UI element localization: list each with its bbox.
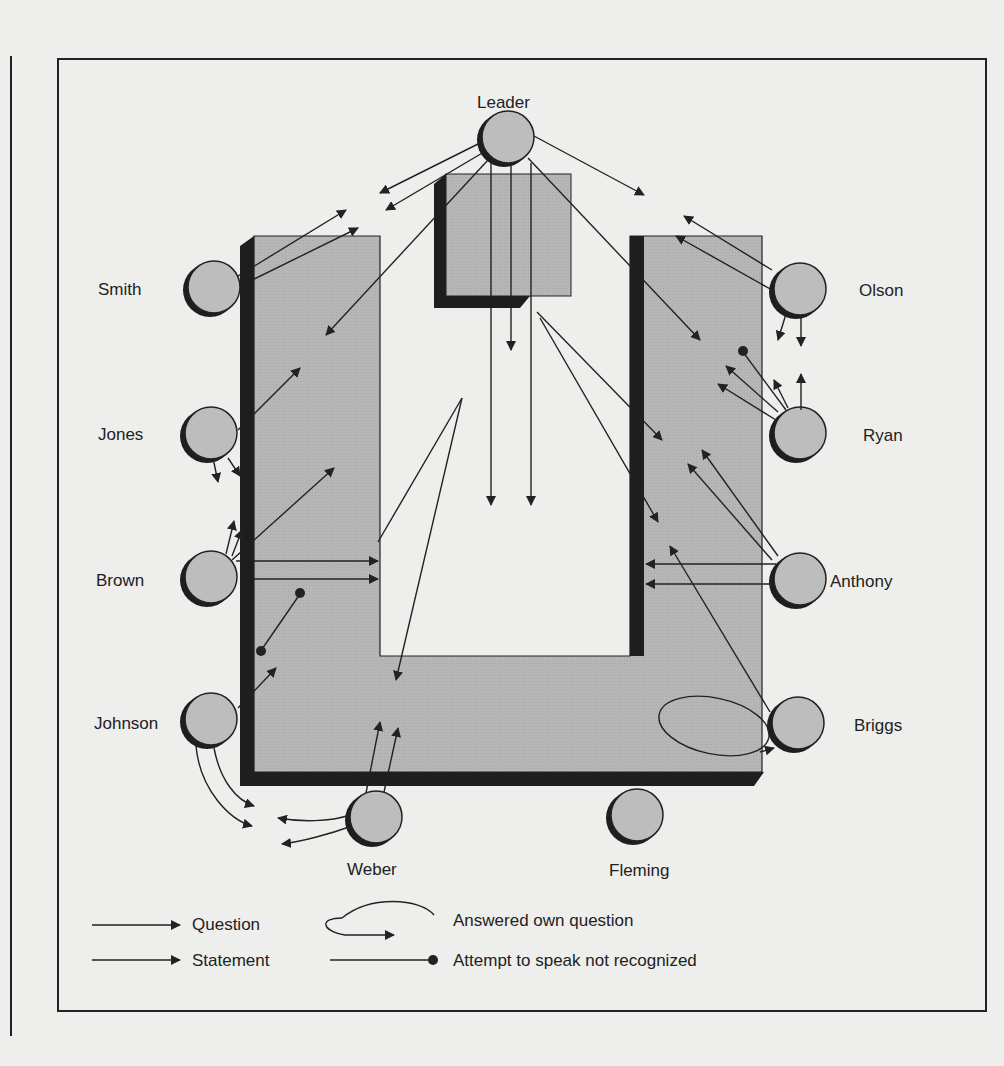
legend-answered-own-label: Answered own question — [453, 911, 634, 931]
legend-answered-own-icon — [326, 918, 394, 935]
seat-jones — [180, 407, 237, 463]
legend-statement-label: Statement — [192, 951, 270, 971]
legend-not-recognized-label: Attempt to speak not recognized — [453, 951, 697, 971]
label-ryan: Ryan — [863, 426, 903, 446]
label-johnson: Johnson — [94, 714, 158, 734]
seat-smith — [183, 261, 240, 317]
label-olson: Olson — [859, 281, 903, 301]
label-brown: Brown — [96, 571, 144, 591]
seat-weber — [345, 791, 402, 847]
seat-johnson — [180, 693, 237, 749]
seat-ryan — [769, 407, 826, 463]
u-table — [240, 236, 764, 786]
label-briggs: Briggs — [854, 716, 902, 736]
seat-fleming — [606, 789, 663, 845]
diagram-canvas — [0, 0, 1004, 1066]
seat-briggs — [767, 697, 824, 753]
lectern — [434, 174, 571, 308]
seat-leader — [477, 111, 534, 167]
label-jones: Jones — [98, 425, 143, 445]
seat-brown — [180, 551, 237, 607]
label-smith: Smith — [98, 280, 141, 300]
label-weber: Weber — [347, 860, 397, 880]
seat-olson — [769, 263, 826, 319]
seat-anthony — [769, 553, 826, 609]
label-fleming: Fleming — [609, 861, 669, 881]
label-anthony: Anthony — [830, 572, 892, 592]
legend-question-label: Question — [192, 915, 260, 935]
label-leader: Leader — [477, 93, 530, 113]
